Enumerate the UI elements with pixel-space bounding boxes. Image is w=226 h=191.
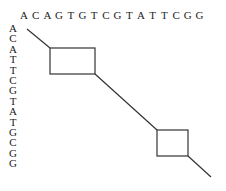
top-sequence-letter: C xyxy=(102,9,109,21)
diagonal-match-segment xyxy=(95,74,157,130)
top-sequence: ACAGTGTCGTATTCGG xyxy=(20,9,204,21)
top-sequence-letter: T xyxy=(67,9,74,21)
gap-box xyxy=(157,130,188,156)
left-sequence: ACATTCGTATGCGG xyxy=(9,22,17,169)
top-sequence-letter: G xyxy=(184,9,192,21)
gap-boxes xyxy=(50,48,188,156)
top-sequence-letter: T xyxy=(149,9,156,21)
left-sequence-letter: G xyxy=(9,157,17,169)
top-sequence-letter: T xyxy=(91,9,98,21)
diagonal-match-segment xyxy=(188,156,211,177)
top-sequence-letter: G xyxy=(196,9,204,21)
top-sequence-letter: A xyxy=(43,9,51,21)
top-sequence-letter: G xyxy=(114,9,122,21)
top-sequence-letter: G xyxy=(55,9,63,21)
top-sequence-letter: G xyxy=(79,9,87,21)
top-sequence-letter: C xyxy=(32,9,39,21)
alignment-path xyxy=(27,29,211,177)
dot-plot-svg: ACAGTGTCGTATTCGG ACATTCGTATGCGG xyxy=(0,0,226,191)
top-sequence-letter: A xyxy=(20,9,28,21)
diagonal-match-segment xyxy=(27,29,50,48)
dot-plot-diagram: ACAGTGTCGTATTCGG ACATTCGTATGCGG xyxy=(0,0,226,191)
top-sequence-letter: T xyxy=(161,9,168,21)
top-sequence-letter: A xyxy=(137,9,145,21)
gap-box xyxy=(50,48,95,74)
top-sequence-letter: T xyxy=(126,9,133,21)
top-sequence-letter: C xyxy=(172,9,179,21)
